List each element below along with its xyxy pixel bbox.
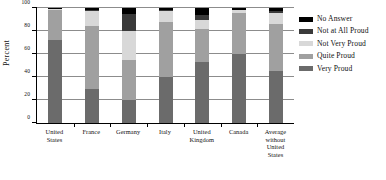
legend-label: Not Very Proud (317, 40, 366, 48)
y-axis-tick-label: 80 (24, 22, 30, 28)
x-axis-label-line: United (183, 128, 220, 136)
x-axis-label-line: States (257, 151, 294, 159)
legend-item: No Answer (299, 14, 369, 24)
legend-label: Not at All Proud (317, 27, 369, 35)
x-axis-label-line: Average (257, 128, 294, 136)
x-axis-label-line: United (36, 128, 73, 136)
x-axis-tick (110, 123, 111, 127)
x-axis-label-line: States (36, 136, 73, 144)
x-axis-label-line: Italy (147, 128, 184, 136)
x-axis-label-line: France (73, 128, 110, 136)
x-axis-label-line: United (257, 143, 294, 151)
y-axis-tick-label: 20 (24, 91, 30, 97)
x-axis-label: Italy (147, 128, 184, 158)
x-axis-label-line: without (257, 136, 294, 144)
x-axis-label: AveragewithoutUnitedStates (257, 128, 294, 158)
x-axis-label: UnitedStates (36, 128, 73, 158)
x-axis-tick (184, 123, 185, 127)
legend-swatch (299, 66, 313, 71)
chart-legend: No AnswerNot at All ProudNot Very ProudQ… (299, 14, 369, 74)
legend-swatch (299, 41, 313, 46)
y-axis-tick-label: 40 (24, 68, 30, 74)
legend-label: Very Proud (317, 65, 352, 73)
x-axis-label-line: Germany (110, 128, 147, 136)
plot-area: 020406080100 (36, 8, 294, 124)
x-axis-labels: UnitedStatesFranceGermanyItalyUnitedKing… (36, 128, 294, 158)
legend-swatch (299, 54, 313, 59)
legend-label: Quite Proud (317, 52, 355, 60)
x-axis-tick (221, 123, 222, 127)
legend-swatch (299, 17, 313, 22)
x-axis-label-line: Kingdom (183, 136, 220, 144)
y-axis-tick-label: 100 (21, 0, 30, 5)
x-axis-label-line: Canada (220, 128, 257, 136)
x-axis-tick (74, 123, 75, 127)
x-axis-tick (147, 123, 148, 127)
y-axis-title: Percent (2, 40, 11, 66)
x-axis-label: UnitedKingdom (183, 128, 220, 158)
legend-item: Quite Proud (299, 51, 369, 61)
legend-item: Not Very Proud (299, 39, 369, 49)
y-axis-tick-label: 0 (27, 114, 30, 120)
legend-label: No Answer (317, 15, 352, 23)
x-axis-ticks (37, 8, 294, 123)
x-axis-tick (257, 123, 258, 127)
legend-item: Not at All Proud (299, 26, 369, 36)
legend-item: Very Proud (299, 64, 369, 74)
x-axis-label: France (73, 128, 110, 158)
x-axis-label: Canada (220, 128, 257, 158)
legend-swatch (299, 29, 313, 34)
stacked-bar-chart: Percent 020406080100 UnitedStatesFranceG… (0, 0, 386, 180)
y-axis-tick-label: 60 (24, 45, 30, 51)
x-axis-label: Germany (110, 128, 147, 158)
